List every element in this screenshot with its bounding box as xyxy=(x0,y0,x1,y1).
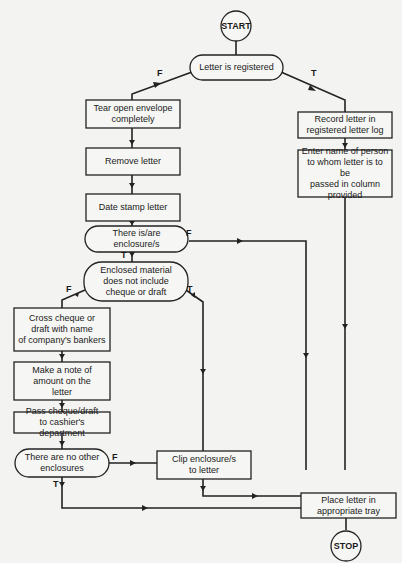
node-text: Cross cheque or xyxy=(18,313,105,324)
node-text: Date stamp letter xyxy=(99,202,168,213)
process-place-letter: Place letter in appropriate tray xyxy=(301,493,396,518)
node-text: Letter is registered xyxy=(199,62,274,73)
decision-letter-registered: Letter is registered xyxy=(190,55,283,80)
stop-label: STOP xyxy=(334,541,358,552)
arrow-down-icon xyxy=(200,486,206,491)
branch-label-false: F xyxy=(112,452,118,462)
edge-nocheque-true xyxy=(186,290,203,451)
node-text: enclosures xyxy=(25,463,100,474)
edge-registered-true xyxy=(281,72,345,112)
node-text: enclosure/s xyxy=(112,239,160,250)
node-text: Make a note of xyxy=(32,365,92,376)
node-text: Tear open envelope xyxy=(93,103,172,114)
arrow-down-icon xyxy=(59,482,65,487)
edge-enclosure-false xyxy=(189,241,306,470)
node-text: to whom letter is to be xyxy=(301,157,389,179)
arrow-down-icon xyxy=(59,441,65,446)
node-text: There is/are xyxy=(112,228,160,239)
branch-label-false: F xyxy=(66,284,72,294)
arrow-down-icon xyxy=(129,140,135,145)
node-text: of company's bankers xyxy=(18,335,105,346)
node-text: appropriate tray xyxy=(317,506,380,517)
arrow-down-icon xyxy=(342,324,348,329)
start-label: START xyxy=(221,21,250,32)
process-enter-name: Enter name of person to whom letter is t… xyxy=(298,150,392,197)
node-text: cheque or draft xyxy=(100,287,172,298)
node-text: Record letter in xyxy=(306,114,383,125)
branch-label-false: F xyxy=(157,68,163,78)
node-text: Pass cheque/draft xyxy=(17,406,107,417)
process-remove-letter: Remove letter xyxy=(86,148,180,175)
node-text: Remove letter xyxy=(105,156,161,167)
arrow-right-icon xyxy=(130,460,136,466)
process-cross-cheque: Cross cheque or draft with name of compa… xyxy=(14,308,110,351)
decision-there-is-enclosure: There is/are enclosure/s xyxy=(85,226,188,252)
node-text: letter xyxy=(32,387,92,398)
node-text: to cashier's department xyxy=(17,417,107,439)
branch-label-true: T xyxy=(121,250,127,260)
stop-terminal: STOP xyxy=(331,531,361,561)
node-text: does not include xyxy=(100,276,172,287)
arrow-right-icon xyxy=(252,493,258,499)
node-text: registered letter log xyxy=(306,125,383,136)
node-text: provided xyxy=(301,190,389,201)
branch-label-true: T xyxy=(187,284,193,294)
process-note-amount: Make a note of amount on the letter xyxy=(14,362,110,400)
branch-label-true: T xyxy=(53,479,59,489)
process-clip-enclosures: Clip enclosure/s to letter xyxy=(157,451,251,479)
decision-no-other-enclosures: There are no other enclosures xyxy=(15,449,109,477)
branch-label-true: T xyxy=(311,68,317,78)
node-text: Enter name of person xyxy=(301,146,389,157)
arrow-right-icon xyxy=(237,238,243,244)
node-text: Clip enclosure/s xyxy=(172,454,236,465)
branch-label-false: F xyxy=(186,228,192,238)
arrow-down-icon xyxy=(59,354,65,359)
node-text: amount on the xyxy=(32,376,92,387)
edge-noother-true xyxy=(62,477,301,508)
node-text: Place letter in xyxy=(317,495,380,506)
node-text: passed in column xyxy=(301,179,389,190)
node-text: to letter xyxy=(172,465,236,476)
arrow-down-icon xyxy=(129,252,135,257)
process-record-letter: Record letter in registered letter log xyxy=(298,112,392,138)
process-date-stamp: Date stamp letter xyxy=(86,194,180,221)
node-text: Enclosed material xyxy=(100,265,172,276)
arrow-down-icon xyxy=(200,369,206,374)
arrow-down-icon xyxy=(303,353,309,358)
arrow-down-icon xyxy=(153,82,161,88)
node-text: draft with name xyxy=(18,324,105,335)
start-terminal: START xyxy=(221,11,251,41)
node-text: There are no other xyxy=(25,452,100,463)
decision-no-cheque: Enclosed material does not include chequ… xyxy=(84,262,188,301)
arrow-right-icon xyxy=(142,505,148,511)
arrow-down-icon xyxy=(129,183,135,188)
process-pass-cheque: Pass cheque/draft to cashier's departmen… xyxy=(14,412,110,433)
node-text: completely xyxy=(93,114,172,125)
process-tear-open: Tear open envelope completely xyxy=(86,100,180,128)
